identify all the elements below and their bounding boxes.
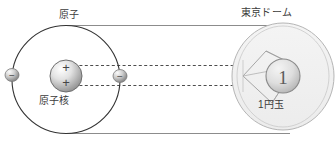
- diagram-canvas: 1 + + − −: [0, 0, 336, 141]
- proton-charge-bottom-icon: +: [62, 75, 70, 90]
- label-atom: 原子: [59, 6, 79, 21]
- scale-comparison-diagram: 1 + + − − 原子 東京ドーム 原子核 1円玉: [0, 0, 336, 141]
- label-tokyo-dome: 東京ドーム: [241, 4, 292, 19]
- tokyo-dome-figure: 1: [232, 23, 334, 130]
- electron-left-charge-icon: −: [9, 70, 15, 81]
- electron-right-charge-icon: −: [117, 71, 123, 82]
- atom-figure: + + − −: [5, 26, 127, 134]
- coin-face-value: 1: [278, 67, 288, 88]
- label-one-yen-coin: 1円玉: [258, 96, 284, 111]
- label-atomic-nucleus: 原子核: [39, 92, 70, 107]
- proton-charge-top-icon: +: [62, 60, 70, 75]
